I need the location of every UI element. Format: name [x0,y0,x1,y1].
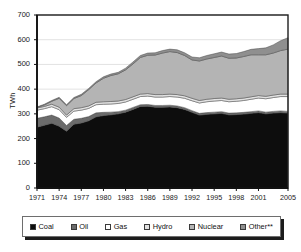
legend-item: Other** [240,222,273,231]
legend-label: Coal [39,222,54,231]
y-tick-label: 600 [4,35,30,44]
legend-label: Gas [114,222,128,231]
legend-label: Nuclear [198,222,223,231]
x-tick-label: 2005 [274,193,301,202]
chart-legend: CoalOilGasHydroNuclearOther** [22,216,281,237]
legend-swatch-icon [240,224,246,230]
legend-swatch-icon [105,224,111,230]
x-tick-label: 2001 [244,193,272,202]
legend-swatch-icon [71,224,77,230]
legend-item: Oil [71,222,89,231]
chart-figure: TWh 7006005004003002001000 1971197419771… [0,0,301,252]
legend-label: Oil [79,222,88,231]
legend-label: Hydro [153,222,173,231]
plot-area-wrapper: TWh 7006005004003002001000 1971197419771… [0,0,301,196]
legend-item: Gas [105,222,127,231]
legend-swatch-icon [30,224,36,230]
y-tick-label: 500 [4,59,30,68]
y-tick-label: 200 [4,134,30,143]
y-tick-label: 700 [4,10,30,19]
legend-swatch-icon [189,224,195,230]
stacked-area-chart [0,0,301,196]
legend-item: Coal [30,222,54,231]
y-tick-label: 400 [4,84,30,93]
legend-item: Nuclear [189,222,223,231]
legend-label: Other** [249,222,273,231]
y-tick-label: 0 [4,183,30,192]
y-tick-label: 300 [4,109,30,118]
y-tick-label: 100 [4,158,30,167]
legend-swatch-icon [144,224,150,230]
legend-item: Hydro [144,222,172,231]
